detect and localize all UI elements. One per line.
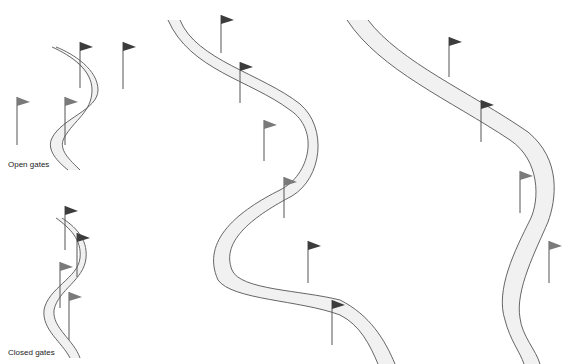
ski-course-right-edge — [368, 20, 554, 364]
open-gates-illustration — [50, 47, 98, 170]
gate-flag — [549, 241, 562, 283]
gate-flag — [17, 97, 30, 145]
flag-pennant-icon — [69, 292, 82, 301]
ski-course — [347, 20, 554, 364]
flag-pennant-icon — [65, 206, 78, 215]
gate-flag — [264, 120, 277, 161]
flag-pennant-icon — [264, 120, 277, 129]
right-course-illustration — [347, 20, 554, 364]
flag-pennant-icon — [308, 241, 321, 250]
gate-flag — [308, 241, 321, 283]
middle-course-illustration — [168, 20, 395, 364]
gate-flag — [69, 292, 82, 340]
flag-pennant-icon — [17, 97, 30, 106]
ski-course — [168, 20, 395, 364]
gate-flag — [520, 171, 533, 213]
flag-pennant-icon — [449, 37, 462, 46]
diagram-canvas — [0, 0, 569, 364]
flag-pennant-icon — [240, 62, 253, 71]
flag-pennant-icon — [123, 42, 136, 51]
flag-pennant-icon — [221, 15, 234, 24]
flag-pennant-icon — [520, 171, 533, 180]
gate-flag — [449, 37, 462, 77]
flag-pennant-icon — [80, 42, 93, 51]
open-gates-label: Open gates — [8, 161, 49, 169]
gate-flag — [221, 15, 234, 53]
flag-pennant-icon — [65, 97, 78, 106]
flag-pennant-icon — [60, 262, 73, 271]
flag-pennant-icon — [549, 241, 562, 250]
closed-gates-label: Closed gates — [8, 349, 55, 357]
gate-flag — [123, 42, 136, 89]
ski-track — [50, 47, 98, 170]
